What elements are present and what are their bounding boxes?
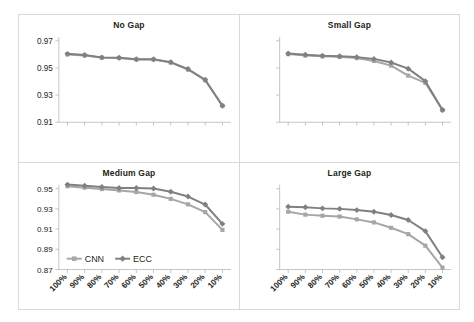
data-point-marker-ecc [285,50,291,56]
data-point-marker-cnn [338,214,342,218]
x-tick-label: 40% [154,273,172,291]
x-tick-label: 70% [103,273,121,291]
data-point-marker-ecc [354,207,360,213]
x-tick-label: 20% [409,272,427,290]
data-point-marker-ecc [302,52,308,58]
series-line-cnn [67,54,222,105]
series-line-ecc [67,54,222,106]
data-point-marker-ecc [285,204,291,210]
data-point-marker-ecc [151,185,157,191]
y-tick-label: 0.95 [37,185,53,194]
x-tick-label: 60% [340,272,358,290]
series-line-cnn [288,212,442,268]
y-tick-label: 0.97 [37,37,53,46]
data-point-marker-ecc [185,194,191,200]
series-line-cnn [288,54,442,110]
x-tick-label: 60% [120,273,138,291]
x-tick-label: 20% [189,273,207,291]
data-point-marker-cnn [423,244,427,248]
plot-area-small-gap [240,15,459,162]
y-tick-label: 0.87 [37,266,53,275]
data-point-marker-ecc [302,204,308,210]
data-point-marker-ecc [337,206,343,212]
panel-medium-gap: Medium Gap 0.870.890.910.930.95100%90%80… [18,162,239,310]
series-line-cnn [67,186,222,230]
plot-area-no-gap: 0.910.930.950.97 [19,15,239,162]
legend-label-cnn: CNN [85,254,104,264]
y-tick-label: 0.95 [37,64,53,73]
x-tick-label: 30% [392,272,410,290]
data-point-marker-cnn [406,232,410,236]
y-tick-label: 0.89 [37,245,53,254]
data-point-marker-cnn [169,197,173,201]
y-tick-label: 0.93 [37,91,53,100]
x-tick-label: 10% [206,273,224,291]
x-tick-label: 50% [357,272,375,290]
data-point-marker-cnn [372,220,376,224]
data-point-marker-cnn [406,73,410,77]
x-tick-label: 50% [137,273,155,291]
data-point-marker-cnn [355,217,359,221]
series-line-ecc [288,53,442,110]
legend: CNNECC [67,254,153,264]
legend-marker-ecc [119,256,125,262]
x-tick-label: 100% [48,273,69,294]
data-point-marker-cnn [440,266,444,270]
panel-grid: No Gap 0.910.930.950.97 Small Gap Medium… [18,14,460,310]
data-point-marker-cnn [203,210,207,214]
data-point-marker-ecc [320,205,326,211]
x-tick-label: 10% [426,272,444,290]
x-tick-label: 70% [323,272,341,290]
x-tick-label: 40% [375,272,393,290]
legend-label-ecc: ECC [133,254,152,264]
data-point-marker-ecc [320,53,326,59]
data-point-marker-cnn [151,193,155,197]
x-tick-label: 80% [85,273,103,291]
plot-area-medium-gap: 0.870.890.910.930.95100%90%80%70%60%50%4… [19,163,239,309]
x-tick-label: 30% [171,273,189,291]
data-point-marker-ecc [388,212,394,218]
y-tick-label: 0.93 [37,205,53,214]
data-point-marker-ecc [371,209,377,215]
data-point-marker-ecc [168,189,174,195]
panel-large-gap: Large Gap 100%90%80%70%60%50%40%30%20%10… [239,162,460,310]
x-tick-label: 80% [306,272,324,290]
plot-area-large-gap: 100%90%80%70%60%50%40%30%20%10% [240,163,459,309]
data-point-marker-cnn [286,210,290,214]
data-point-marker-cnn [303,213,307,217]
x-tick-label: 90% [68,273,86,291]
data-point-marker-cnn [220,228,224,232]
figure-canvas: No Gap 0.910.930.950.97 Small Gap Medium… [0,0,474,322]
y-tick-label: 0.91 [37,225,53,234]
x-tick-label: 90% [289,272,307,290]
panel-small-gap: Small Gap [239,14,460,162]
y-tick-label: 0.91 [37,118,53,127]
data-point-marker-cnn [389,226,393,230]
panel-no-gap: No Gap 0.910.930.950.97 [18,14,239,162]
legend-marker-cnn [72,256,77,261]
x-tick-label: 100% [269,272,290,293]
series-line-ecc [67,185,222,224]
data-point-marker-cnn [320,214,324,218]
data-point-marker-cnn [186,202,190,206]
